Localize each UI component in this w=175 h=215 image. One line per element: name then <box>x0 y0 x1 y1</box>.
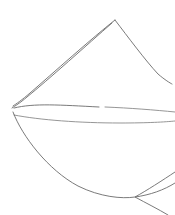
canvas-background <box>0 0 175 215</box>
sketch-canvas <box>0 0 175 215</box>
line-sketch-svg <box>0 0 175 215</box>
